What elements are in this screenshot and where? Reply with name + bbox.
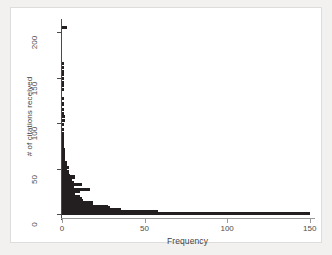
x-axis-label: Frequency xyxy=(62,236,313,246)
bar xyxy=(62,128,64,131)
bar xyxy=(62,119,65,122)
y-axis-label: # of citations received xyxy=(25,57,34,177)
y-tick xyxy=(57,214,61,215)
bar xyxy=(62,84,64,87)
y-tick xyxy=(57,169,61,170)
bar xyxy=(62,70,64,73)
x-tick xyxy=(62,219,63,223)
bar xyxy=(62,108,64,111)
bar xyxy=(62,73,64,76)
bar xyxy=(62,88,64,91)
bar xyxy=(62,102,64,105)
bar xyxy=(62,132,64,135)
y-tick-label: 0 xyxy=(30,213,39,237)
y-tick xyxy=(57,78,61,79)
y-tick-label: 200 xyxy=(30,30,39,54)
bar xyxy=(62,115,65,118)
x-tick xyxy=(310,219,311,223)
plot-card: 050100150200 050100150 # of citations re… xyxy=(10,7,322,243)
bar xyxy=(62,112,64,115)
bar xyxy=(62,77,64,80)
bar xyxy=(62,26,67,29)
figure-canvas: 050100150200 050100150 # of citations re… xyxy=(0,0,332,255)
y-tick xyxy=(57,123,61,124)
plot-area xyxy=(62,21,313,218)
bar xyxy=(62,97,64,100)
y-tick xyxy=(57,32,61,33)
x-tick-label: 150 xyxy=(295,224,325,233)
x-axis-line xyxy=(61,218,315,219)
x-tick-label: 50 xyxy=(130,224,160,233)
bar xyxy=(62,81,64,84)
bar xyxy=(62,66,64,69)
x-tick xyxy=(145,219,146,223)
x-tick-label: 100 xyxy=(212,224,242,233)
x-tick xyxy=(227,219,228,223)
x-tick-label: 0 xyxy=(47,224,77,233)
bar xyxy=(62,123,64,126)
bar xyxy=(62,62,64,65)
